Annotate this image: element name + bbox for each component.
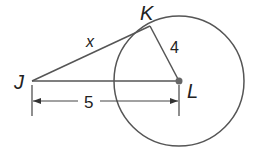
label-segment-KL: 4 bbox=[170, 39, 179, 56]
label-dimension-JL: 5 bbox=[84, 93, 93, 112]
label-point-J: J bbox=[13, 71, 25, 93]
tangent-circle-diagram: J K L x 4 5 bbox=[0, 0, 256, 151]
label-point-L: L bbox=[187, 80, 198, 102]
label-segment-JK: x bbox=[85, 33, 95, 50]
label-point-K: K bbox=[140, 2, 155, 24]
center-point-L bbox=[176, 78, 183, 85]
